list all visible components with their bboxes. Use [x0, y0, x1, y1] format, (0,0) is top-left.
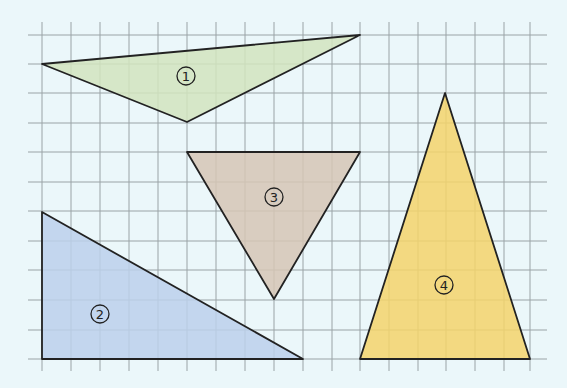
triangle-3: 3: [187, 152, 360, 299]
shape-label: 2: [96, 307, 104, 322]
triangle-grid-diagram: 1234: [0, 0, 567, 388]
shapes: 1234: [42, 35, 530, 359]
shape-label: 1: [182, 69, 190, 84]
shape-label: 3: [270, 190, 278, 205]
shape-label: 4: [440, 278, 448, 293]
triangle-1: 1: [42, 35, 360, 122]
triangle-1-polygon: [42, 35, 360, 122]
triangle-3-polygon: [187, 152, 360, 299]
